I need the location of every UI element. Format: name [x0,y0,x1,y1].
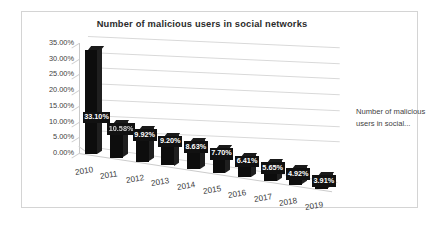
bar-side-face [97,47,102,154]
chart-canvas: Number of malicious users in social netw… [0,0,442,229]
bar-value-label: 5.65% [261,162,285,174]
bar-value-label: 33.10% [83,112,111,124]
bar-column [85,50,98,154]
bar-value-label: 7.70% [210,148,234,160]
legend-label-line2: users in social... [356,118,434,130]
plot-area: 35.00%30.00%25.00%20.00%15.00%10.00%5.00… [22,36,352,206]
bar-value-label: 6.41% [235,156,259,168]
bar-value-label: 3.91% [312,175,336,187]
bar-value-label: 8.63% [184,141,208,153]
bar-value-label: 10.58% [107,123,135,135]
bar-front-face [85,50,98,154]
bar-value-label: 9.20% [158,136,182,148]
chart-legend: Number of malicious users in social... [356,106,434,130]
x-axis-category-label: 2019 [304,200,323,212]
bar-value-label: 4.92% [286,168,310,180]
chart-title: Number of malicious users in social netw… [52,19,352,29]
legend-label-line1: Number of malicious [356,106,434,118]
bar-value-label: 9.92% [133,129,157,141]
